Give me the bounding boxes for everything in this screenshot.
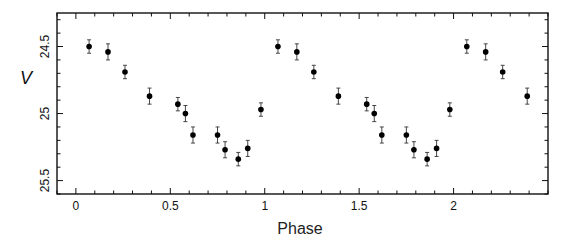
data-point: [371, 106, 377, 122]
data-point: [434, 140, 440, 156]
marker-dot: [411, 147, 417, 153]
x-tick-label: 0.5: [162, 199, 179, 213]
y-axis-label: V: [20, 68, 34, 88]
data-point: [294, 44, 300, 60]
marker-dot: [311, 69, 317, 75]
data-point: [411, 142, 417, 158]
marker-dot: [147, 93, 153, 99]
data-point: [147, 88, 153, 104]
marker-dot: [424, 156, 430, 162]
marker-dot: [434, 146, 440, 152]
data-point: [311, 65, 317, 78]
marker-dot: [464, 44, 470, 50]
marker-dot: [500, 69, 506, 75]
marker-dot: [215, 132, 221, 138]
marker-dot: [245, 146, 251, 152]
data-point: [500, 65, 506, 78]
marker-dot: [86, 44, 92, 50]
x-tick-label: 0: [73, 199, 80, 213]
marker-dot: [447, 107, 453, 113]
marker-dot: [183, 111, 189, 117]
marker-dot: [222, 147, 228, 153]
x-tick-label: 1: [261, 199, 268, 213]
data-point: [275, 40, 281, 53]
data-point: [447, 103, 453, 116]
x-tick-label: 1.5: [351, 199, 368, 213]
x-axis-ticks: 00.511.52: [57, 13, 548, 213]
data-point: [222, 142, 228, 158]
data-points: [86, 40, 530, 166]
y-tick-label: 25: [38, 107, 52, 121]
data-point: [215, 127, 221, 143]
y-tick-label: 24.5: [38, 35, 52, 59]
data-point: [336, 88, 342, 104]
data-point: [190, 127, 196, 143]
marker-dot: [235, 156, 241, 162]
marker-dot: [294, 49, 300, 55]
marker-dot: [336, 93, 342, 99]
marker-dot: [379, 132, 385, 138]
data-point: [122, 65, 128, 78]
x-tick-label: 2: [450, 199, 457, 213]
data-point: [258, 103, 264, 116]
data-point: [483, 44, 489, 60]
data-point: [424, 152, 430, 165]
plot-border: [57, 13, 548, 194]
marker-dot: [524, 93, 530, 99]
data-point: [379, 127, 385, 143]
marker-dot: [105, 49, 111, 55]
marker-dot: [364, 101, 370, 107]
light-curve-chart: 00.511.52 24.52525.5 Phase V: [0, 0, 569, 249]
data-point: [364, 97, 370, 110]
plot-frame: [57, 13, 548, 194]
data-point: [404, 127, 410, 143]
y-axis-ticks: 24.52525.5: [38, 20, 548, 194]
y-tick-label: 25.5: [38, 169, 52, 193]
data-point: [235, 152, 241, 165]
x-axis-label: Phase: [277, 220, 322, 237]
marker-dot: [175, 101, 181, 107]
marker-dot: [258, 107, 264, 113]
data-point: [245, 140, 251, 156]
data-point: [105, 44, 111, 60]
marker-dot: [275, 44, 281, 50]
data-point: [86, 40, 92, 53]
marker-dot: [404, 132, 410, 138]
marker-dot: [371, 111, 377, 117]
data-point: [175, 97, 181, 110]
data-point: [464, 40, 470, 53]
data-point: [183, 106, 189, 122]
marker-dot: [483, 49, 489, 55]
data-point: [524, 88, 530, 104]
marker-dot: [122, 69, 128, 75]
marker-dot: [190, 132, 196, 138]
